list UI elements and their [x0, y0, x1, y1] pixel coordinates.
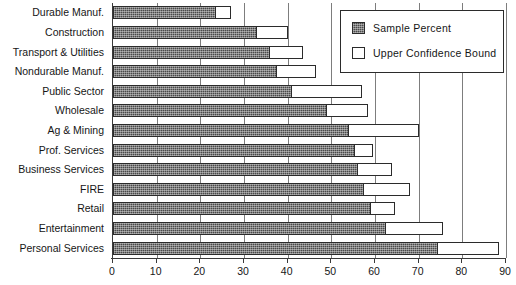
chart-legend: Sample Percent Upper Confidence Bound: [340, 10, 504, 73]
legend-label: Upper Confidence Bound: [373, 47, 496, 59]
x-tick-label: 70: [398, 265, 438, 277]
x-tick-mark: [330, 258, 331, 263]
category-label: Durable Manuf.: [0, 7, 104, 18]
bar-row: [113, 183, 506, 196]
legend-entry-upper-confidence-bound: Upper Confidence Bound: [352, 46, 496, 60]
x-tick-label: 50: [310, 265, 350, 277]
x-tick-mark: [199, 258, 200, 263]
x-tick-mark: [418, 258, 419, 263]
x-tick-label: 80: [441, 265, 481, 277]
bar-sample-percent: [113, 26, 257, 39]
bar-row: [113, 104, 506, 117]
category-label: Ag & Mining: [0, 125, 104, 136]
bar-sample-percent: [113, 222, 386, 235]
x-tick-mark: [287, 258, 288, 263]
gridline: [506, 3, 507, 258]
x-tick-mark: [374, 258, 375, 263]
bar-sample-percent: [113, 104, 327, 117]
bar-row: [113, 222, 506, 235]
bar-row: [113, 124, 506, 137]
bar-sample-percent: [113, 46, 270, 59]
category-axis: Durable Manuf.ConstructionTransport & Ut…: [0, 3, 108, 258]
x-tick-label: 40: [267, 265, 307, 277]
x-tick-mark: [505, 258, 506, 263]
x-tick-label: 30: [223, 265, 263, 277]
category-label: Prof. Services: [0, 145, 104, 156]
category-label: Construction: [0, 27, 104, 38]
category-label: Public Sector: [0, 86, 104, 97]
category-label: Entertainment: [0, 223, 104, 234]
bar-sample-percent: [113, 202, 371, 215]
bar-sample-percent: [113, 163, 358, 176]
bar-row: [113, 242, 506, 255]
x-tick-label: 60: [354, 265, 394, 277]
category-label: Retail: [0, 203, 104, 214]
x-axis: 0102030405060708090: [112, 258, 505, 285]
x-tick-mark: [461, 258, 462, 263]
legend-swatch-icon: [352, 22, 365, 34]
bar-sample-percent: [113, 124, 349, 137]
bar-row: [113, 144, 506, 157]
bar-sample-percent: [113, 144, 355, 157]
legend-label: Sample Percent: [373, 22, 451, 34]
bar-sample-percent: [113, 183, 364, 196]
legend-swatch-icon: [352, 47, 365, 59]
x-tick-label: 20: [179, 265, 219, 277]
bar-sample-percent: [113, 6, 216, 19]
bar-sample-percent: [113, 242, 438, 255]
category-label: Business Services: [0, 164, 104, 175]
category-label: FIRE: [0, 184, 104, 195]
category-label: Nondurable Manuf.: [0, 66, 104, 77]
bar-row: [113, 85, 506, 98]
category-label: Wholesale: [0, 105, 104, 116]
x-axis-line: [111, 258, 505, 259]
x-tick-label: 0: [92, 265, 132, 277]
x-tick-mark: [112, 258, 113, 263]
x-tick-mark: [156, 258, 157, 263]
x-tick-mark: [243, 258, 244, 263]
category-label: Personal Services: [0, 243, 104, 254]
bar-sample-percent: [113, 65, 277, 78]
category-label: Transport & Utilities: [0, 47, 104, 58]
bar-sample-percent: [113, 85, 292, 98]
x-tick-label: 90: [485, 265, 516, 277]
bar-row: [113, 163, 506, 176]
bar-row: [113, 202, 506, 215]
x-tick-label: 10: [136, 265, 176, 277]
legend-entry-sample-percent: Sample Percent: [352, 21, 451, 35]
